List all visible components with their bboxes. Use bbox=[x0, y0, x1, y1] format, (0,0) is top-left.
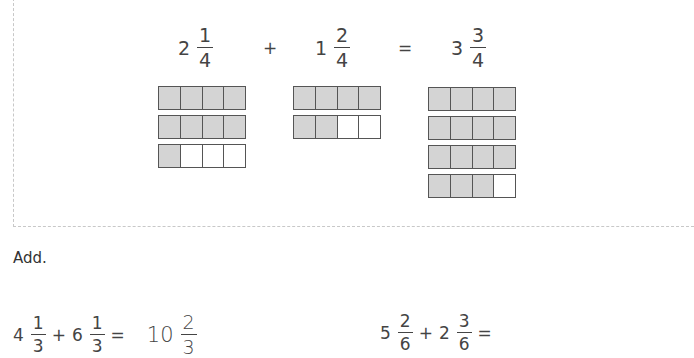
shaded-cell bbox=[181, 87, 203, 109]
shaded-cell bbox=[203, 116, 225, 138]
denominator: 3 bbox=[92, 335, 103, 355]
whole-number: 5 bbox=[380, 323, 391, 343]
denominator: 4 bbox=[199, 48, 211, 70]
numerator: 3 bbox=[470, 26, 486, 48]
shaded-cell bbox=[473, 175, 495, 197]
fraction-model-result bbox=[428, 87, 516, 203]
fraction-bar bbox=[428, 116, 516, 140]
fraction-model-term1 bbox=[158, 86, 246, 173]
question-2: 5 2 6 + 2 3 6 = bbox=[380, 313, 578, 353]
shaded-cell bbox=[473, 146, 495, 168]
fraction-bar bbox=[293, 115, 381, 139]
denominator: 3 bbox=[33, 335, 44, 355]
fraction-bar bbox=[158, 86, 246, 110]
shaded-cell bbox=[294, 116, 316, 138]
fraction-bar bbox=[158, 115, 246, 139]
fraction-bar bbox=[428, 87, 516, 111]
empty-cell bbox=[224, 145, 245, 167]
fraction: 1 3 bbox=[31, 315, 46, 355]
whole-number: 2 bbox=[439, 323, 450, 343]
shaded-cell bbox=[159, 87, 181, 109]
shaded-cell bbox=[494, 88, 515, 110]
fraction-model-term2 bbox=[293, 86, 381, 144]
numerator: 2 bbox=[398, 313, 413, 333]
shaded-cell bbox=[429, 175, 451, 197]
shaded-cell bbox=[159, 145, 181, 167]
whole-number: 6 bbox=[72, 325, 83, 345]
shaded-cell bbox=[451, 88, 473, 110]
plus-sign: + bbox=[419, 323, 433, 343]
shaded-cell bbox=[338, 87, 360, 109]
whole-number: 1 bbox=[315, 37, 327, 59]
plus-sign: + bbox=[52, 325, 66, 345]
example-result: 3 3 4 bbox=[451, 26, 486, 70]
example-term2: 1 2 4 bbox=[315, 26, 350, 70]
shaded-cell bbox=[494, 146, 515, 168]
fraction: 2 4 bbox=[334, 26, 350, 70]
empty-cell bbox=[338, 116, 360, 138]
fraction-bar bbox=[428, 145, 516, 169]
numerator: 2 bbox=[181, 313, 197, 335]
example-term1: 2 1 4 bbox=[178, 26, 213, 70]
denominator: 3 bbox=[183, 335, 195, 357]
instruction-label: Add. bbox=[13, 249, 47, 267]
shaded-cell bbox=[294, 87, 316, 109]
shaded-cell bbox=[451, 117, 473, 139]
empty-cell bbox=[203, 145, 225, 167]
numerator: 1 bbox=[197, 26, 213, 48]
shaded-cell bbox=[473, 88, 495, 110]
fraction: 3 6 bbox=[457, 313, 472, 353]
shaded-cell bbox=[429, 146, 451, 168]
fraction: 3 4 bbox=[470, 26, 486, 70]
shaded-cell bbox=[359, 87, 380, 109]
numerator: 1 bbox=[31, 315, 46, 335]
numerator: 2 bbox=[334, 26, 350, 48]
fraction: 1 3 bbox=[90, 315, 105, 355]
equals-sign: = bbox=[398, 38, 412, 58]
shaded-cell bbox=[316, 87, 338, 109]
whole-number: 3 bbox=[451, 37, 463, 59]
equals-sign: = bbox=[111, 325, 125, 345]
plus-sign: + bbox=[263, 38, 277, 58]
question-1: 4 1 3 + 6 1 3 = 10 2 3 bbox=[13, 313, 197, 357]
fraction-bar bbox=[158, 144, 246, 168]
denominator: 6 bbox=[459, 333, 470, 353]
whole-number: 2 bbox=[178, 37, 190, 59]
shaded-cell bbox=[429, 88, 451, 110]
empty-cell bbox=[494, 175, 515, 197]
denominator: 4 bbox=[472, 48, 484, 70]
denominator: 4 bbox=[336, 48, 348, 70]
shaded-cell bbox=[203, 87, 225, 109]
shaded-cell bbox=[181, 116, 203, 138]
shaded-cell bbox=[159, 116, 181, 138]
denominator: 6 bbox=[400, 333, 411, 353]
empty-cell bbox=[181, 145, 203, 167]
shaded-cell bbox=[451, 146, 473, 168]
fraction-bar bbox=[293, 86, 381, 110]
answer-whole[interactable]: 10 bbox=[147, 323, 174, 347]
answer-fraction[interactable]: 2 3 bbox=[181, 313, 197, 357]
shaded-cell bbox=[224, 116, 245, 138]
numerator: 1 bbox=[90, 315, 105, 335]
shaded-cell bbox=[316, 116, 338, 138]
fraction: 2 6 bbox=[398, 313, 413, 353]
answer-blank[interactable] bbox=[498, 318, 578, 348]
shaded-cell bbox=[429, 117, 451, 139]
shaded-cell bbox=[224, 87, 245, 109]
shaded-cell bbox=[473, 117, 495, 139]
numerator: 3 bbox=[457, 313, 472, 333]
shaded-cell bbox=[494, 117, 515, 139]
equals-sign: = bbox=[478, 323, 492, 343]
shaded-cell bbox=[451, 175, 473, 197]
fraction: 1 4 bbox=[197, 26, 213, 70]
fraction-bar bbox=[428, 174, 516, 198]
empty-cell bbox=[359, 116, 380, 138]
whole-number: 4 bbox=[13, 325, 24, 345]
